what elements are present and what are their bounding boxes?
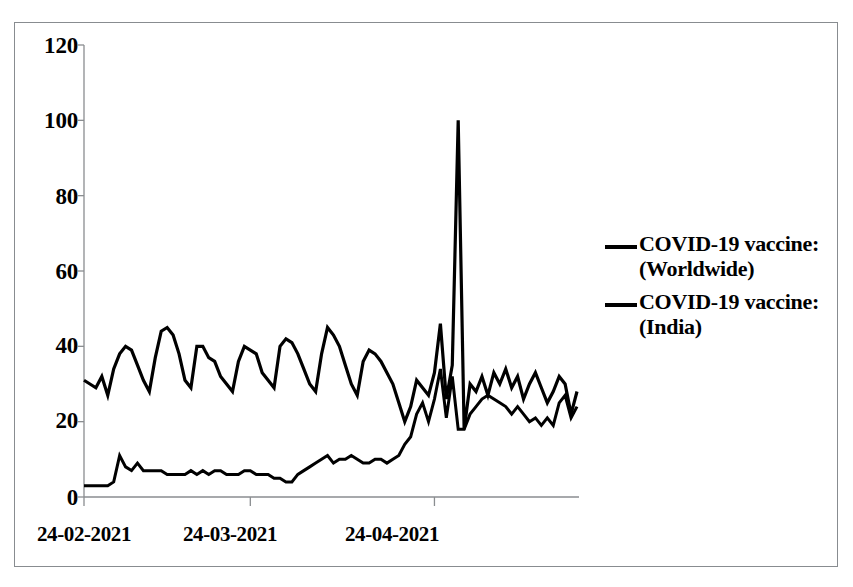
series-line-india bbox=[84, 369, 577, 486]
plot-area bbox=[0, 0, 853, 587]
data-series-group bbox=[84, 120, 577, 485]
figure: 120 100 80 60 40 20 0 24-02-2021 24-03-2… bbox=[0, 0, 853, 587]
axes bbox=[77, 45, 579, 506]
series-line-worldwide bbox=[84, 120, 577, 429]
